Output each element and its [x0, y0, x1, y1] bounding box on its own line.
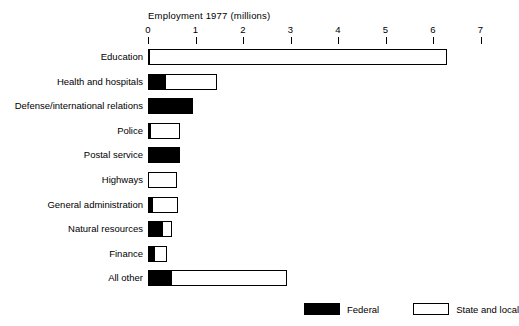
bar-segment-state-and-local [163, 222, 171, 236]
legend-entry: Federal [304, 303, 379, 315]
chart-legend: FederalState and local [304, 302, 519, 316]
stacked-bar [148, 172, 177, 188]
legend-entry: State and local [413, 303, 519, 315]
bar-segment-federal [149, 99, 192, 113]
bar-segment-federal [149, 222, 163, 236]
bar-segment-state-and-local [149, 173, 176, 187]
bar-row-label: Postal service [84, 149, 143, 161]
bar-row: Education [0, 49, 487, 65]
stacked-bar [148, 123, 180, 139]
bar-row-label: All other [108, 272, 143, 284]
bar-row-label: General administration [47, 199, 143, 211]
stacked-bar [148, 270, 287, 286]
stacked-bar [148, 98, 193, 114]
bar-segment-state-and-local [153, 198, 177, 212]
stacked-bar [148, 49, 447, 65]
bar-segment-federal [149, 271, 172, 285]
legend-swatch-state-and-local [413, 303, 449, 315]
bar-row: General administration [0, 197, 487, 213]
bar-row: Highways [0, 172, 487, 188]
bar-segment-state-and-local [151, 124, 179, 138]
bar-row: Postal service [0, 147, 487, 163]
stacked-bar [148, 246, 167, 262]
bar-segment-state-and-local [150, 50, 446, 64]
legend-swatch-federal [304, 303, 340, 315]
bar-segment-federal [149, 75, 166, 89]
bar-row-label: Finance [109, 248, 143, 260]
bar-row: All other [0, 270, 487, 286]
bar-row: Natural resources [0, 221, 487, 237]
legend-label: State and local [456, 304, 519, 315]
bar-row-label: Education [101, 51, 143, 63]
bar-segment-state-and-local [155, 247, 166, 261]
bar-row-label: Health and hospitals [57, 76, 143, 88]
legend-label: Federal [347, 304, 379, 315]
bar-row: Defense/international relations [0, 98, 487, 114]
bar-segment-state-and-local [166, 75, 216, 89]
stacked-bar [148, 147, 180, 163]
bar-segment-federal [149, 148, 179, 162]
bar-row-label: Highways [102, 174, 143, 186]
stacked-bar [148, 197, 178, 213]
bar-row-label: Natural resources [68, 223, 143, 235]
bar-row-label: Police [117, 125, 143, 137]
bar-row: Police [0, 123, 487, 139]
bar-segment-state-and-local [172, 271, 286, 285]
bar-row: Health and hospitals [0, 74, 487, 90]
bar-row: Finance [0, 246, 487, 262]
stacked-bar [148, 221, 172, 237]
bar-row-label: Defense/international relations [15, 100, 143, 112]
stacked-bar [148, 74, 217, 90]
